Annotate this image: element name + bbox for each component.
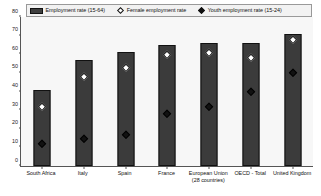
y-axis-tick-label: 80: [12, 9, 21, 14]
y-axis-tick-label: 40: [12, 83, 21, 88]
y-axis-tick-label: 10: [12, 139, 21, 144]
x-axis-tick-mark: [167, 166, 168, 169]
x-axis-tick-mark: [251, 166, 252, 169]
bar-group: [147, 17, 189, 166]
x-axis-tick-mark: [41, 166, 42, 169]
x-axis-label: European Union (28 countries): [185, 170, 231, 183]
y-axis-tick-label: 50: [12, 65, 21, 70]
x-axis-label: Italy: [60, 170, 106, 177]
x-axis-label: United Kingdom: [269, 170, 315, 177]
x-axis-label: France: [144, 170, 190, 177]
x-axis-tick-mark: [293, 166, 294, 169]
y-axis-tick-label: 30: [12, 102, 21, 107]
plot-area: 01020304050607080: [20, 17, 313, 167]
employment-rate-chart: Employment rate (15-64) Female employmen…: [0, 0, 321, 196]
legend-item-female-employment-rate: Female employment rate: [118, 8, 186, 13]
legend-label-youth-employment-rate: Youth employment rate (15-24): [208, 8, 282, 13]
legend-label-employment-rate: Employment rate (15-64): [46, 8, 106, 13]
white-diamond-icon: [117, 7, 124, 14]
legend-item-youth-employment-rate: Youth employment rate (15-24): [199, 8, 282, 13]
legend-label-female-employment-rate: Female employment rate: [127, 8, 187, 13]
chart-legend: Employment rate (15-64) Female employmen…: [26, 4, 312, 17]
legend-item-employment-rate: Employment rate (15-64): [30, 8, 105, 14]
bar-group: [21, 17, 63, 166]
bar-group: [272, 17, 314, 166]
black-diamond-icon: [198, 7, 205, 14]
x-axis-tick-mark: [125, 166, 126, 169]
bar-swatch-icon: [30, 8, 43, 14]
x-axis-label: OECD - Total: [227, 170, 273, 177]
x-axis-tick-mark: [209, 166, 210, 169]
bar-employment-rate: [285, 34, 302, 166]
y-axis-tick-label: 70: [12, 28, 21, 33]
x-axis-labels: South AfricaItalySpainFranceEuropean Uni…: [20, 170, 313, 194]
bar-group: [105, 17, 147, 166]
x-axis-label: Spain: [102, 170, 148, 177]
y-axis-tick-label: 20: [12, 121, 21, 126]
x-axis-tick-mark: [83, 166, 84, 169]
bar-employment-rate: [243, 43, 260, 166]
bar-employment-rate: [159, 45, 176, 166]
bar-group: [188, 17, 230, 166]
bar-group: [63, 17, 105, 166]
bar-employment-rate: [33, 90, 50, 166]
bar-group: [230, 17, 272, 166]
x-axis-label: South Africa: [18, 170, 64, 177]
plot-inner: 01020304050607080: [21, 17, 313, 166]
y-axis-tick-label: 60: [12, 46, 21, 51]
